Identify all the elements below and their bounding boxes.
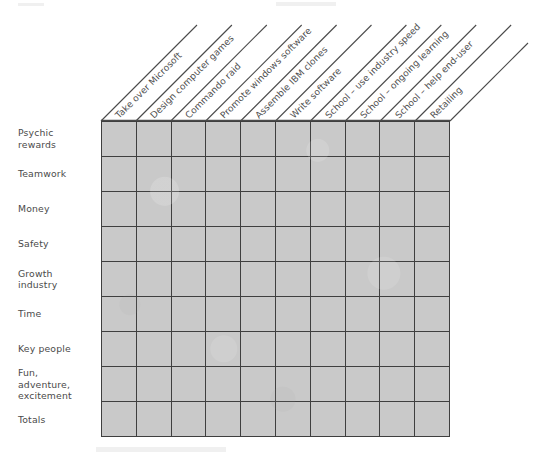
matrix-cell[interactable] bbox=[241, 262, 276, 296]
matrix-cell[interactable] bbox=[380, 122, 415, 156]
matrix-cell[interactable] bbox=[380, 157, 415, 191]
matrix-cell[interactable] bbox=[311, 122, 346, 156]
matrix-cell[interactable] bbox=[172, 227, 207, 261]
matrix-cell[interactable] bbox=[172, 332, 207, 366]
matrix-cell[interactable] bbox=[415, 297, 450, 331]
matrix-cell[interactable] bbox=[415, 367, 450, 401]
matrix-cell[interactable] bbox=[311, 227, 346, 261]
matrix-cell[interactable] bbox=[102, 297, 137, 331]
matrix-cell[interactable] bbox=[311, 402, 346, 436]
matrix-cell[interactable] bbox=[102, 402, 137, 436]
matrix-cell[interactable] bbox=[276, 262, 311, 296]
matrix-cell[interactable] bbox=[311, 262, 346, 296]
matrix-cell[interactable] bbox=[346, 367, 381, 401]
matrix-cell[interactable] bbox=[276, 332, 311, 366]
matrix-cell[interactable] bbox=[241, 402, 276, 436]
matrix-cell[interactable] bbox=[346, 332, 381, 366]
matrix-cell[interactable] bbox=[380, 297, 415, 331]
matrix-cell[interactable] bbox=[276, 402, 311, 436]
matrix-cell[interactable] bbox=[346, 262, 381, 296]
matrix-cell[interactable] bbox=[276, 297, 311, 331]
matrix-cell[interactable] bbox=[206, 157, 241, 191]
matrix-cell[interactable] bbox=[276, 122, 311, 156]
matrix-cell[interactable] bbox=[102, 262, 137, 296]
matrix-cell[interactable] bbox=[137, 262, 172, 296]
matrix-cell[interactable] bbox=[206, 297, 241, 331]
matrix-cell[interactable] bbox=[311, 332, 346, 366]
matrix-cell[interactable] bbox=[380, 367, 415, 401]
matrix-cell[interactable] bbox=[241, 122, 276, 156]
matrix-cell[interactable] bbox=[102, 192, 137, 226]
matrix-cell[interactable] bbox=[137, 332, 172, 366]
matrix-grid-rows bbox=[102, 122, 450, 437]
matrix-cell[interactable] bbox=[137, 402, 172, 436]
matrix-cell[interactable] bbox=[172, 192, 207, 226]
diagonal-rule bbox=[415, 25, 511, 121]
matrix-cell[interactable] bbox=[346, 192, 381, 226]
matrix-cell[interactable] bbox=[137, 157, 172, 191]
diagonal-rules-svg bbox=[0, 0, 538, 130]
matrix-cell[interactable] bbox=[241, 332, 276, 366]
matrix-cell[interactable] bbox=[415, 402, 450, 436]
matrix-cell[interactable] bbox=[206, 192, 241, 226]
matrix-cell[interactable] bbox=[380, 332, 415, 366]
matrix-cell[interactable] bbox=[206, 402, 241, 436]
matrix-cell[interactable] bbox=[102, 332, 137, 366]
matrix-cell[interactable] bbox=[346, 297, 381, 331]
matrix-cell[interactable] bbox=[172, 122, 207, 156]
matrix-cell[interactable] bbox=[311, 367, 346, 401]
column-header-school-help-end-user: School – help end-user bbox=[393, 39, 475, 121]
matrix-cell[interactable] bbox=[276, 227, 311, 261]
matrix-cell[interactable] bbox=[415, 262, 450, 296]
matrix-cell[interactable] bbox=[241, 192, 276, 226]
diagonal-rule bbox=[310, 25, 406, 121]
matrix-cell[interactable] bbox=[415, 332, 450, 366]
matrix-cell[interactable] bbox=[311, 192, 346, 226]
matrix-cell[interactable] bbox=[102, 122, 137, 156]
matrix-cell[interactable] bbox=[241, 297, 276, 331]
matrix-cell[interactable] bbox=[346, 402, 381, 436]
matrix-cell[interactable] bbox=[415, 192, 450, 226]
matrix-cell[interactable] bbox=[137, 367, 172, 401]
matrix-cell[interactable] bbox=[311, 297, 346, 331]
matrix-cell[interactable] bbox=[346, 227, 381, 261]
matrix-cell[interactable] bbox=[241, 367, 276, 401]
matrix-cell[interactable] bbox=[137, 227, 172, 261]
matrix-cell[interactable] bbox=[137, 192, 172, 226]
matrix-cell[interactable] bbox=[172, 157, 207, 191]
matrix-row bbox=[102, 297, 450, 332]
matrix-cell[interactable] bbox=[206, 262, 241, 296]
matrix-cell[interactable] bbox=[102, 367, 137, 401]
matrix-cell[interactable] bbox=[241, 157, 276, 191]
matrix-cell[interactable] bbox=[137, 122, 172, 156]
matrix-cell[interactable] bbox=[206, 367, 241, 401]
matrix-cell[interactable] bbox=[206, 332, 241, 366]
matrix-cell[interactable] bbox=[311, 157, 346, 191]
matrix-cell[interactable] bbox=[137, 297, 172, 331]
matrix-cell[interactable] bbox=[380, 262, 415, 296]
matrix-cell[interactable] bbox=[206, 227, 241, 261]
matrix-cell[interactable] bbox=[346, 122, 381, 156]
matrix-cell[interactable] bbox=[172, 297, 207, 331]
matrix-cell[interactable] bbox=[346, 157, 381, 191]
row-header-money: Money bbox=[0, 191, 92, 226]
column-header-assemble-ibm-clones: Assemble IBM clones bbox=[253, 44, 329, 120]
matrix-cell[interactable] bbox=[415, 157, 450, 191]
matrix-cell[interactable] bbox=[102, 227, 137, 261]
matrix-cell[interactable] bbox=[415, 227, 450, 261]
matrix-cell[interactable] bbox=[380, 227, 415, 261]
matrix-cell[interactable] bbox=[276, 192, 311, 226]
matrix-cell[interactable] bbox=[206, 122, 241, 156]
matrix-cell[interactable] bbox=[172, 402, 207, 436]
matrix-cell[interactable] bbox=[415, 122, 450, 156]
matrix-cell[interactable] bbox=[380, 402, 415, 436]
matrix-cell[interactable] bbox=[172, 262, 207, 296]
matrix-cell[interactable] bbox=[241, 227, 276, 261]
matrix-cell[interactable] bbox=[276, 157, 311, 191]
scan-artifact bbox=[18, 3, 44, 6]
matrix-cell[interactable] bbox=[380, 192, 415, 226]
diagonal-rule bbox=[101, 25, 197, 121]
matrix-cell[interactable] bbox=[276, 367, 311, 401]
matrix-cell[interactable] bbox=[102, 157, 137, 191]
matrix-cell[interactable] bbox=[172, 367, 207, 401]
